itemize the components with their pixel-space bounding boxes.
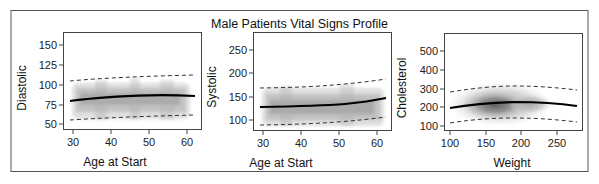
figure-title: Male Patients Vital Signs Profile (211, 17, 388, 31)
svg-text:100: 100 (420, 120, 438, 132)
svg-text:60: 60 (371, 137, 383, 149)
svg-text:300: 300 (420, 83, 438, 95)
svg-text:50: 50 (143, 136, 155, 148)
svg-text:150: 150 (477, 137, 495, 149)
chart-figure: Male Patients Vital Signs Profile 150 12… (0, 0, 599, 184)
svg-text:100: 100 (441, 137, 459, 149)
x-axis-label: Weight (493, 156, 531, 170)
x-axis-label: Age at Start (83, 155, 147, 169)
svg-text:200: 200 (229, 67, 247, 79)
y-axis-label: Cholesterol (395, 58, 409, 119)
svg-text:200: 200 (512, 137, 530, 149)
svg-text:60: 60 (181, 136, 193, 148)
svg-text:250: 250 (229, 44, 247, 56)
svg-text:50: 50 (333, 137, 345, 149)
y-axis-label: Systolic (205, 66, 219, 107)
svg-text:200: 200 (420, 101, 438, 113)
svg-text:150: 150 (229, 91, 247, 103)
svg-text:150: 150 (39, 39, 57, 51)
svg-text:125: 125 (39, 59, 57, 71)
svg-text:75: 75 (45, 99, 57, 111)
svg-text:400: 400 (420, 64, 438, 76)
svg-text:100: 100 (39, 79, 57, 91)
svg-text:30: 30 (67, 136, 79, 148)
svg-text:100: 100 (229, 114, 247, 126)
svg-text:40: 40 (105, 136, 117, 148)
svg-text:250: 250 (548, 137, 566, 149)
svg-text:30: 30 (257, 137, 269, 149)
y-axis-label: Diastolic (15, 65, 29, 110)
svg-text:500: 500 (420, 45, 438, 57)
scatter-points (448, 82, 552, 126)
svg-text:50: 50 (45, 118, 57, 130)
svg-text:40: 40 (295, 137, 307, 149)
x-axis-label: Age at Start (249, 156, 313, 170)
